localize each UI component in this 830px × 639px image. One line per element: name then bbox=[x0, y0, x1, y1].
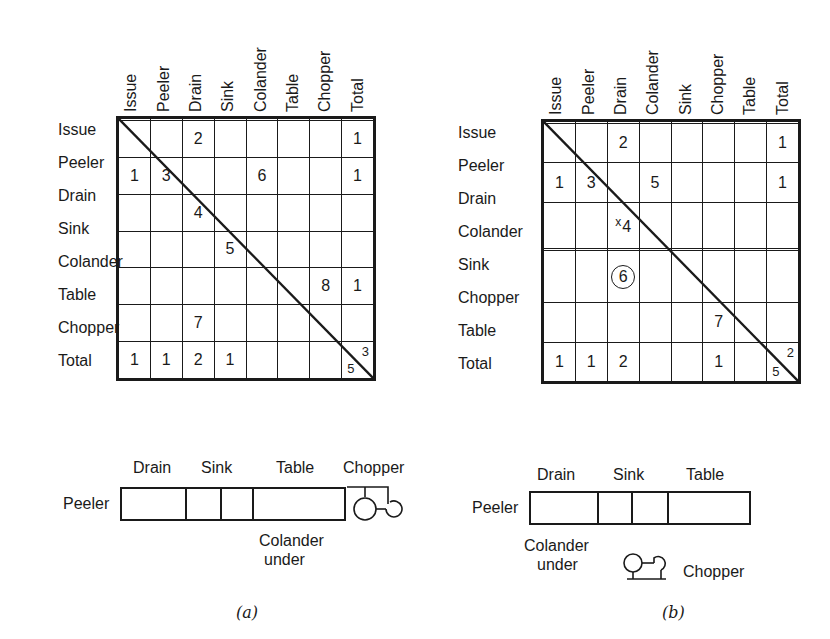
cell: 1 bbox=[342, 268, 374, 305]
cell: 4 bbox=[182, 194, 214, 231]
cell bbox=[278, 120, 310, 157]
circled-value: 6 bbox=[611, 265, 635, 289]
cell bbox=[150, 305, 182, 342]
cell bbox=[182, 231, 214, 268]
divider bbox=[185, 489, 187, 519]
cell: 1 bbox=[767, 163, 799, 202]
cell: 1 bbox=[150, 342, 182, 379]
cell: 8 bbox=[310, 268, 342, 305]
layout-label-under: under bbox=[264, 551, 305, 569]
cell-value: 4 bbox=[622, 218, 631, 235]
cell bbox=[246, 305, 278, 342]
row-label: Colander bbox=[458, 223, 523, 241]
layout-label-sink: Sink bbox=[201, 459, 232, 477]
figure-a-matrix: 21 1361 4 5 81 7 1121 3 5 bbox=[116, 116, 376, 381]
cell: 2 bbox=[182, 120, 214, 157]
cell bbox=[214, 120, 246, 157]
cell: 1 bbox=[342, 157, 374, 194]
cell bbox=[310, 342, 342, 379]
col-label: Issue bbox=[547, 77, 565, 115]
row-label: Total bbox=[58, 352, 92, 370]
cell bbox=[639, 124, 671, 163]
cell bbox=[671, 124, 703, 163]
cell bbox=[575, 303, 607, 342]
col-label: Chopper bbox=[316, 51, 334, 112]
col-label: Peeler bbox=[155, 66, 173, 112]
chopper-icon bbox=[621, 550, 681, 586]
cell bbox=[575, 251, 607, 303]
cell: 3 bbox=[575, 163, 607, 202]
total-corner-cell: 3 5 bbox=[342, 342, 374, 379]
row-label: Total bbox=[458, 355, 492, 373]
cell bbox=[310, 231, 342, 268]
cell bbox=[735, 163, 767, 202]
cell bbox=[278, 342, 310, 379]
cell: 1 bbox=[767, 124, 799, 163]
cell bbox=[119, 231, 151, 268]
row-label: Peeler bbox=[58, 154, 104, 172]
cell bbox=[342, 194, 374, 231]
layout-label-table: Table bbox=[276, 459, 314, 477]
figure-b-matrix: 21 1351 x4 6 7 1121 bbox=[541, 119, 801, 384]
cell bbox=[246, 342, 278, 379]
cell bbox=[246, 268, 278, 305]
cell: 7 bbox=[182, 305, 214, 342]
cell: 7 bbox=[703, 303, 735, 342]
cell bbox=[119, 194, 151, 231]
cell bbox=[278, 268, 310, 305]
cell bbox=[246, 231, 278, 268]
figure-a-column-labels: Issue Peeler Drain Sink Colander Table C… bbox=[116, 0, 375, 112]
col-label: Total bbox=[349, 78, 367, 112]
cell bbox=[703, 163, 735, 202]
cell bbox=[310, 305, 342, 342]
cell bbox=[544, 251, 576, 303]
row-label: Sink bbox=[458, 256, 489, 274]
cell: 1 bbox=[544, 342, 576, 381]
cell bbox=[246, 120, 278, 157]
cell bbox=[150, 194, 182, 231]
cell bbox=[214, 268, 246, 305]
cell bbox=[214, 194, 246, 231]
cell bbox=[182, 157, 214, 194]
cell bbox=[246, 194, 278, 231]
cell: 1 bbox=[703, 342, 735, 381]
cell bbox=[278, 305, 310, 342]
cell bbox=[735, 124, 767, 163]
cell bbox=[342, 231, 374, 268]
col-label: Table bbox=[741, 77, 759, 115]
cell: 6 bbox=[246, 157, 278, 194]
cell bbox=[278, 194, 310, 231]
cell bbox=[671, 251, 703, 303]
col-label: Colander bbox=[252, 47, 270, 112]
cell bbox=[703, 202, 735, 248]
cell bbox=[735, 251, 767, 303]
chopper-icon bbox=[345, 482, 405, 527]
cell: 1 bbox=[544, 163, 576, 202]
row-label: Table bbox=[58, 286, 96, 304]
cell: 1 bbox=[119, 342, 151, 379]
cell bbox=[671, 202, 703, 248]
cell bbox=[767, 303, 799, 342]
cell bbox=[575, 202, 607, 248]
cell bbox=[119, 305, 151, 342]
row-label: Drain bbox=[58, 187, 96, 205]
layout-label-drain: Drain bbox=[537, 466, 575, 484]
row-label: Peeler bbox=[458, 157, 504, 175]
row-label: Chopper bbox=[58, 319, 119, 337]
row-label: Drain bbox=[458, 190, 496, 208]
cell bbox=[735, 342, 767, 381]
figure-b-column-labels: Issue Peeler Drain Colander Sink Chopper… bbox=[541, 0, 800, 115]
col-label: Table bbox=[284, 74, 302, 112]
cell bbox=[278, 231, 310, 268]
cell-marked: x4 bbox=[607, 202, 639, 248]
cell bbox=[119, 268, 151, 305]
cell bbox=[182, 268, 214, 305]
cell bbox=[639, 251, 671, 303]
cell bbox=[150, 231, 182, 268]
total-corner-lower: 5 bbox=[772, 364, 779, 379]
col-label: Peeler bbox=[580, 69, 598, 115]
total-corner-upper: 3 bbox=[362, 344, 369, 359]
layout-label-table: Table bbox=[686, 466, 724, 484]
layout-label-sink: Sink bbox=[613, 466, 644, 484]
cell bbox=[735, 202, 767, 248]
